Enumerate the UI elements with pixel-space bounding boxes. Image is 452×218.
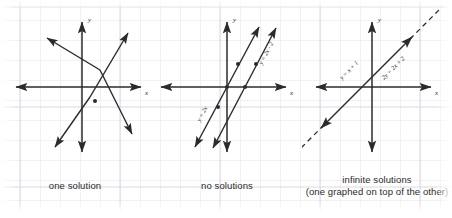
line-y-equals-2x-minus-2-lower: [213, 87, 245, 148]
x-axis-label: x: [289, 89, 294, 97]
line-negative-slope: [100, 70, 132, 134]
y-axis-label: y: [232, 16, 237, 24]
line-2y-equals-2x-plus-2-dashed-upper: [410, 7, 442, 39]
plot-point: [243, 85, 247, 89]
line-positive-slope-other-half: [55, 97, 90, 147]
x-axis-label: x: [434, 89, 439, 97]
caption-no-solutions: no solutions: [152, 180, 302, 192]
line-negative-slope-other-half: [47, 38, 100, 70]
figure-systems-of-equations: x y one solution: [0, 0, 452, 218]
line-y-equals-x-plus-1-lower: [321, 87, 362, 128]
line-y-equals-x-plus-1: [362, 37, 412, 87]
caption-infinite-solutions-line2: (one graphed on top of the other): [302, 186, 452, 198]
label-y-equals-2x-minus-2: y = 2x - 2: [256, 40, 275, 67]
line-y-equals-2x: [227, 27, 259, 87]
plot-point: [225, 85, 229, 89]
plot-point: [216, 105, 220, 109]
panel-infinite-solutions: y = x + 1 2y = 2x + 2 x y infinite solut…: [302, 0, 452, 218]
caption-infinite-solutions: infinite solutions (one graphed on top o…: [302, 174, 452, 197]
plot-point: [236, 62, 240, 66]
caption-one-solution: one solution: [0, 180, 150, 192]
line-2y-equals-2x-plus-2-dashed-lower: [302, 125, 324, 149]
y-axis-label: y: [377, 16, 382, 24]
label-y-equals-x-plus-1: y = x + 1: [337, 59, 359, 81]
x-axis-label: x: [144, 89, 149, 97]
intersection-point: [93, 99, 97, 103]
panels-container: x y one solution: [0, 0, 452, 218]
label-y-equals-2x: y = 2x: [194, 105, 208, 124]
label-2y-equals-2x-plus-2: 2y = 2x + 2: [380, 54, 407, 81]
y-axis-label: y: [87, 16, 92, 24]
caption-infinite-solutions-line1: infinite solutions: [302, 174, 452, 186]
panel-one-solution: x y one solution: [0, 0, 150, 218]
panel-no-solutions: y = 2x y = 2x - 2 x y no solutions: [152, 0, 302, 218]
